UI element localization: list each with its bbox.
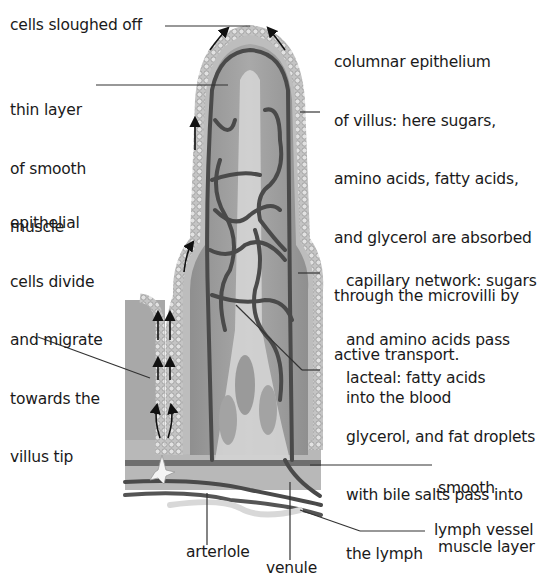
label-line: smooth (438, 479, 535, 499)
label-line: thin layer (10, 101, 86, 121)
label-epithelial-cells: epithelial cells divide and migrate towa… (10, 175, 103, 487)
label-line: columnar epithelium (334, 53, 532, 73)
label-smooth-muscle-layer: smooth muscle layer (438, 440, 535, 577)
label-line: amino acids, fatty acids, (334, 170, 532, 190)
label-line: and migrate (10, 331, 103, 351)
label-arteriole: arterlole (186, 543, 250, 563)
label-line: cells divide (10, 273, 103, 293)
label-line: villus tip (10, 448, 103, 468)
label-line: towards the (10, 390, 103, 410)
label-line: of villus: here sugars, (334, 112, 532, 132)
label-line: capillary network: sugars (346, 272, 537, 292)
label-venule: venule (266, 559, 317, 577)
label-line: epithelial (10, 214, 103, 234)
label-line: lacteal: fatty acids (346, 369, 535, 389)
label-cells-sloughed-off: cells sloughed off (10, 16, 142, 36)
label-lymph-vessel: lymph vessel (434, 521, 533, 541)
